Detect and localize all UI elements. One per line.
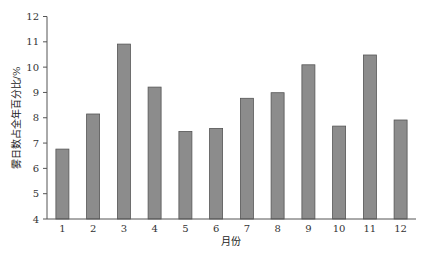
x-tick-label: 4	[151, 223, 157, 234]
x-tick-label: 2	[90, 223, 96, 234]
y-tick-label: 7	[33, 138, 39, 149]
y-tick-label: 8	[33, 112, 39, 123]
bar-month-9	[302, 65, 315, 219]
bar-month-8	[271, 93, 284, 219]
y-axis-title: 雾日数占全年百分比/%	[10, 67, 22, 170]
bar-month-6	[210, 128, 223, 219]
x-tick-label: 5	[182, 223, 188, 234]
x-tick-label: 6	[213, 223, 219, 234]
bar-month-2	[87, 114, 100, 219]
x-tick-label: 11	[364, 223, 377, 234]
y-tick-label: 11	[26, 36, 39, 47]
bar-month-10	[333, 126, 346, 219]
y-tick-label: 10	[26, 62, 39, 73]
bar-month-3	[117, 44, 130, 219]
x-tick-label: 12	[394, 223, 407, 234]
x-axis-title: 月份	[221, 236, 241, 247]
y-tick-label: 5	[33, 188, 39, 199]
bar-month-5	[179, 131, 192, 219]
x-tick-label: 8	[274, 223, 280, 234]
x-tick-label: 10	[333, 223, 346, 234]
bar-month-4	[148, 87, 161, 219]
bar-series	[56, 44, 407, 219]
x-tick-label: 1	[59, 223, 65, 234]
bar-month-1	[56, 149, 69, 219]
bar-month-11	[363, 55, 376, 219]
bar-month-7	[240, 98, 253, 219]
x-tick-label: 7	[244, 223, 250, 234]
y-tick-label: 9	[33, 87, 39, 98]
bar-month-12	[394, 120, 407, 219]
x-axis: 123456789101112	[47, 219, 416, 234]
y-tick-label: 6	[33, 163, 39, 174]
y-tick-label: 12	[26, 11, 39, 22]
x-tick-label: 3	[121, 223, 127, 234]
y-tick-label: 4	[33, 214, 39, 225]
bar-chart: 456789101112 123456789101112 雾日数占全年百分比/%…	[0, 0, 427, 258]
x-tick-label: 9	[305, 223, 311, 234]
y-axis: 456789101112	[26, 11, 47, 225]
